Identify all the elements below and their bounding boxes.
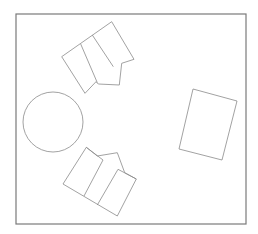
chair-divider-top-2 xyxy=(92,35,113,67)
chair-divider-top-1 xyxy=(81,44,98,83)
chair-group-top-outline xyxy=(62,22,134,94)
chair-divider-bottom-1 xyxy=(84,160,103,196)
chair-panel-right-top-edge xyxy=(118,169,136,179)
chair-group-bottom xyxy=(63,147,136,216)
chair-group-top xyxy=(62,22,134,94)
floor-plan-diagram xyxy=(0,0,258,234)
round-table xyxy=(23,92,83,152)
room-frame xyxy=(16,14,246,224)
chair-panel-left-top-edge xyxy=(86,147,103,160)
chair-divider-bottom-2 xyxy=(97,169,118,205)
rectangular-table xyxy=(179,89,237,160)
